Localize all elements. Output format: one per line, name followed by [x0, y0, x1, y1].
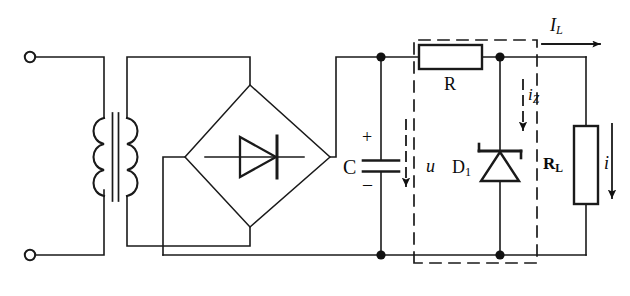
junction-dots	[376, 52, 504, 259]
i-current-label: i	[604, 154, 609, 172]
input-terminal-bottom	[25, 190, 104, 260]
zener-diode-label: D1	[452, 158, 471, 179]
load-resistor-label: RL	[543, 155, 563, 175]
capacitor-label: C	[343, 157, 356, 177]
filter-capacitor	[363, 57, 399, 255]
circuit-diagram-canvas: C + – R u D1 iZ RL IL i	[0, 0, 630, 296]
schematic-drawing	[0, 0, 630, 296]
capacitor-plus-sign: +	[362, 128, 372, 146]
load-resistor	[574, 57, 598, 255]
series-resistor-label: R	[444, 75, 456, 93]
transformer	[94, 57, 251, 246]
il-current-label: IL	[550, 16, 563, 37]
input-terminal-top	[25, 52, 104, 118]
series-resistor	[419, 45, 482, 69]
zener-diode	[479, 57, 521, 255]
capacitor-minus-sign: –	[363, 175, 372, 193]
iz-current-label: iZ	[528, 86, 539, 106]
u-voltage-label: u	[426, 157, 435, 175]
